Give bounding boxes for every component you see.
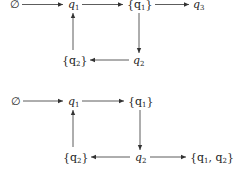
node-set-q1: {q1}: [127, 0, 153, 12]
node-empty-set: ∅: [11, 95, 21, 108]
diagram-top: ∅ q1 {q1} q3 {q2} q2: [10, 0, 205, 68]
node-q2: q2: [133, 54, 145, 68]
node-set-q1-q2: {q1, q2}: [190, 151, 234, 165]
diagram-canvas: ∅ q1 {q1} q3 {q2} q2 ∅ q1 {q1} {q2} q2 {…: [0, 0, 234, 172]
node-set-q1: {q1}: [128, 95, 154, 109]
node-q3: q3: [193, 0, 205, 12]
diagram-bottom: ∅ q1 {q1} {q2} q2 {q1, q2}: [11, 95, 234, 165]
node-set-q2: {q2}: [62, 54, 88, 68]
node-empty-set: ∅: [10, 0, 20, 11]
node-q2: q2: [135, 151, 147, 165]
node-q1: q1: [68, 95, 80, 109]
node-q1: q1: [68, 0, 80, 12]
node-set-q2: {q2}: [63, 151, 89, 165]
